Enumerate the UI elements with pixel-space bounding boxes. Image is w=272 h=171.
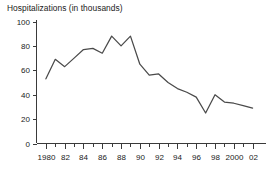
x-tick-label: 86 <box>98 153 107 162</box>
y-tick-label: 20 <box>21 115 30 124</box>
x-tick-label: 96 <box>192 153 201 162</box>
x-tick-label: 98 <box>211 153 220 162</box>
x-tick-label: 2000 <box>226 153 244 162</box>
y-axis-tick-marks <box>33 22 37 144</box>
chart-plot-area: 020406080100 198082848688909294969820000… <box>0 0 272 171</box>
x-axis-tick-marks <box>47 144 254 150</box>
x-tick-label: 02 <box>249 153 258 162</box>
x-tick-label: 92 <box>155 153 164 162</box>
y-tick-label: 0 <box>26 140 31 149</box>
x-axis-tick-labels: 1980828486889092949698200002 <box>38 153 259 162</box>
hospitalizations-line-chart: Hospitalizations (in thousands) 02040608… <box>0 0 272 171</box>
x-tick-label: 90 <box>136 153 145 162</box>
x-tick-label: 88 <box>117 153 126 162</box>
x-tick-label: 94 <box>173 153 182 162</box>
x-tick-label: 1980 <box>38 153 56 162</box>
y-tick-label: 60 <box>21 66 30 75</box>
y-tick-label: 80 <box>21 42 30 51</box>
data-series-line <box>46 36 253 113</box>
x-tick-label: 84 <box>79 153 88 162</box>
y-tick-label: 100 <box>17 18 31 27</box>
x-tick-label: 82 <box>61 153 70 162</box>
y-tick-label: 40 <box>21 91 30 100</box>
y-axis-tick-labels: 020406080100 <box>17 18 31 149</box>
